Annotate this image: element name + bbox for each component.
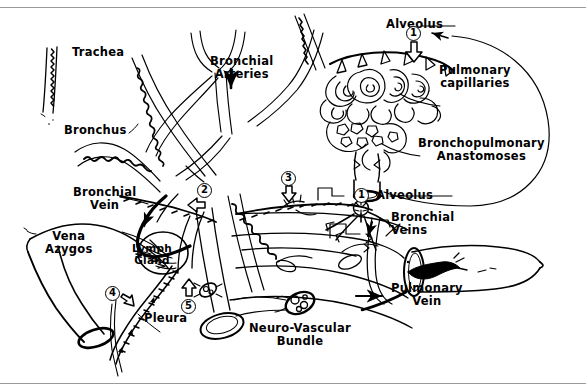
- nerve-bundle-small: [194, 280, 222, 299]
- label-bronchus: Bronchus: [64, 124, 127, 137]
- callout-1-mid[interactable]: 1: [354, 188, 369, 203]
- circulation-loop-path: [384, 33, 549, 206]
- label-pulmonary-vein: Pulmonary Vein: [391, 282, 463, 307]
- neuro-vascular-bundle-illustration: [234, 288, 318, 319]
- trachea-illustration: [41, 47, 57, 125]
- alveolus-capillary-cluster: [320, 51, 454, 201]
- pulmonary-vessel-body: [230, 188, 412, 328]
- label-alveolus-mid: Alveolus: [376, 189, 433, 202]
- callout-2[interactable]: 2: [197, 183, 212, 198]
- callout-3[interactable]: 3: [281, 171, 296, 186]
- bronchial-veins-illustration: [364, 218, 392, 304]
- label-bronchial-veins: Bronchial Veins: [391, 211, 454, 236]
- label-neuro-vascular-bundle: Neuro-Vascular Bundle: [249, 322, 351, 347]
- figure-page: Trachea Bronchus Bronchial Arteries Bron…: [0, 0, 586, 391]
- label-pulmonary-capillaries: Pulmonary capillaries: [439, 64, 511, 89]
- label-bronchial-arteries: Bronchial Arteries: [210, 55, 273, 80]
- bronchus-illustration: [129, 55, 216, 176]
- bronchial-arteries-illustration: [146, 30, 323, 180]
- label-bronchopulmonary-anastomoses: Bronchopulmonary Anastomoses: [418, 137, 545, 162]
- callout-1-top[interactable]: 1: [406, 26, 421, 41]
- label-trachea: Trachea: [72, 46, 124, 59]
- callout-4[interactable]: 4: [105, 286, 120, 301]
- label-pleura: Pleura: [144, 312, 187, 325]
- label-vena-azygos: Vena Azygos: [45, 230, 93, 255]
- label-lymph-gland: Lymph Gland: [132, 243, 172, 266]
- callout-5[interactable]: 5: [181, 299, 196, 314]
- alveolus-mid-illustration: [326, 201, 396, 251]
- label-bronchial-vein: Bronchial Vein: [73, 186, 136, 211]
